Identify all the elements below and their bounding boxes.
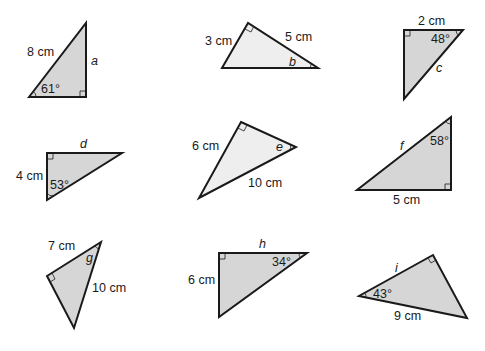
triangle-h: h 34° 6 cm [188, 237, 307, 317]
triangle-g: 7 cm g 10 cm [47, 239, 126, 328]
side-label-1: 3 cm [205, 34, 232, 48]
angle-label: 58° [430, 134, 449, 148]
side-label: 2 cm [418, 14, 445, 28]
unknown-label: f [400, 139, 405, 153]
unknown-label: b [289, 55, 296, 69]
angle-label: 48° [431, 32, 450, 46]
triangle-c: 2 cm 48° c [404, 14, 463, 99]
angle-label: 53° [50, 178, 69, 192]
triangle-d-shape [47, 153, 122, 200]
angle-label: 43° [373, 287, 392, 301]
unknown-label: d [80, 137, 88, 151]
unknown-label: g [86, 251, 93, 265]
triangle-i: i 43° 9 cm [359, 255, 467, 323]
triangle-e: 6 cm e 10 cm [192, 122, 296, 198]
side-label: 8 cm [27, 45, 54, 59]
side-label: 6 cm [188, 273, 215, 287]
triangle-a: 8 cm a 61° [27, 23, 98, 97]
unknown-label: a [91, 54, 98, 68]
triangle-f: f 58° 5 cm [357, 117, 451, 207]
unknown-label: e [276, 140, 283, 154]
side-label-2: 10 cm [248, 176, 282, 190]
side-label-2: 10 cm [92, 281, 126, 295]
side-label: 9 cm [394, 309, 421, 323]
unknown-label: i [395, 261, 399, 275]
angle-label: 61° [41, 82, 60, 96]
triangle-f-shape [357, 117, 451, 190]
unknown-label: c [436, 61, 443, 75]
triangle-d: d 4 cm 53° [16, 137, 122, 200]
side-label-1: 6 cm [192, 139, 219, 153]
triangle-b: 3 cm 5 cm b [205, 23, 318, 69]
triangles-diagram: 8 cm a 61° 3 cm 5 cm b 2 cm 48° c d 4 cm… [0, 0, 485, 351]
triangle-h-shape [219, 253, 307, 317]
angle-label: 34° [272, 255, 291, 269]
side-label-1: 7 cm [48, 239, 75, 253]
side-label: 4 cm [16, 169, 43, 183]
unknown-label: h [259, 237, 266, 251]
side-label: 5 cm [393, 193, 420, 207]
side-label-2: 5 cm [285, 30, 312, 44]
